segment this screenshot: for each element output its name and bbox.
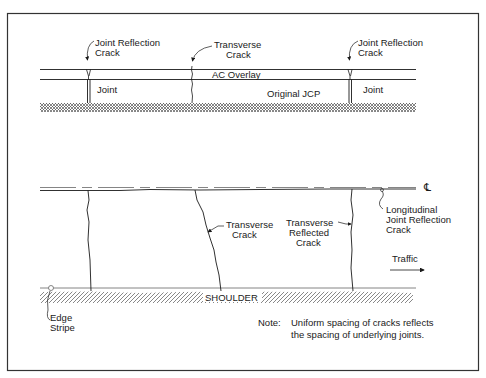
note-block: Note: Uniform spacing of cracks reflects… (258, 317, 434, 340)
label-ac-overlay: AC Overlay (212, 69, 261, 80)
leader-longitudinal (379, 191, 383, 209)
label-shoulder: SHOULDER (205, 292, 258, 303)
leader-left (87, 41, 94, 60)
label-reflected-3: Crack (296, 237, 321, 248)
transverse-crack-center (192, 66, 193, 103)
note-line-2: the spacing of underlying joints. (291, 329, 424, 340)
leader-right (349, 41, 358, 60)
label-joint-right: Joint (363, 84, 383, 95)
label-transverse-crack-top-2: Crack (226, 49, 251, 60)
note-line-1: Uniform spacing of cracks reflects (291, 317, 434, 328)
joint-reflection-crack-left (87, 70, 91, 80)
leader-plan-reflected (338, 222, 351, 224)
longitudinal-crack-line (40, 189, 416, 191)
plan-view: SHOULDER Transverse Crack Transverse Ref… (40, 181, 451, 333)
leader-center (193, 46, 213, 61)
section-profile: Joint Reflection Crack Transverse Crack … (40, 37, 423, 112)
label-traffic: Traffic (392, 253, 418, 264)
centerline-symbol: ℄ (423, 181, 431, 193)
label-original-jcp: Original JCP (267, 88, 320, 99)
plan-crack-left (87, 191, 91, 292)
label-plan-transverse-2: Crack (232, 229, 257, 240)
plan-crack-right (351, 189, 353, 291)
edge-stripe-marker (49, 286, 54, 291)
label-edge-stripe-2: Stripe (50, 322, 75, 333)
leader-plan-transverse (208, 226, 224, 232)
note-label: Note: (258, 317, 281, 328)
pavement-crack-diagram: Joint Reflection Crack Transverse Crack … (0, 0, 486, 378)
label-joint-reflection-left-2: Crack (95, 47, 120, 58)
label-longitudinal-3: Crack (386, 224, 411, 235)
label-joint-left: Joint (97, 84, 117, 95)
label-joint-reflection-right-2: Crack (358, 47, 383, 58)
base-layer-hatch (40, 103, 416, 112)
plan-crack-center (195, 190, 221, 291)
joint-reflection-crack-right (348, 70, 352, 80)
